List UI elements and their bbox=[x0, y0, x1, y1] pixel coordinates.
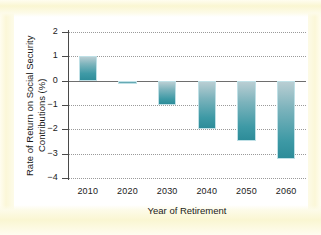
gridline bbox=[68, 32, 306, 33]
gridline bbox=[68, 105, 306, 106]
y-axis-tick-label: 0 bbox=[0, 75, 58, 85]
gridline bbox=[68, 178, 306, 179]
y-axis-tick-label: 1 bbox=[0, 50, 58, 60]
gridline bbox=[68, 129, 306, 130]
x-axis-tick-label: 2020 bbox=[108, 186, 148, 196]
figure-container: Rate of Return on Social Security Contri… bbox=[0, 0, 321, 235]
y-axis-tick-label: −3 bbox=[0, 148, 58, 158]
bar-2060 bbox=[277, 81, 296, 159]
y-axis-tick bbox=[62, 32, 68, 33]
y-axis-tick bbox=[62, 56, 68, 57]
zero-line bbox=[64, 81, 306, 82]
x-axis-tick-label: 2010 bbox=[68, 186, 108, 196]
bar-chart: Rate of Return on Social Security Contri… bbox=[0, 0, 321, 235]
gridline bbox=[68, 56, 306, 57]
x-axis-tick-label: 2030 bbox=[147, 186, 187, 196]
y-axis-tick bbox=[62, 178, 68, 179]
y-axis-tick bbox=[62, 154, 68, 155]
x-axis-tick-label: 2050 bbox=[227, 186, 267, 196]
x-axis-tick-label: 2040 bbox=[187, 186, 227, 196]
gridline bbox=[68, 154, 306, 155]
plot-area bbox=[68, 32, 306, 178]
y-axis-line bbox=[68, 30, 69, 180]
x-axis-title: Year of Retirement bbox=[68, 205, 306, 216]
y-axis-title-line-2: Contributions (%) bbox=[36, 79, 47, 152]
bar-2040 bbox=[198, 81, 217, 130]
y-axis-tick-label: −2 bbox=[0, 123, 58, 133]
y-axis-tick bbox=[62, 105, 68, 106]
bar-2010 bbox=[79, 56, 98, 80]
bar-2020 bbox=[118, 81, 137, 85]
bar-2050 bbox=[237, 81, 256, 142]
x-axis-tick-label: 2060 bbox=[266, 186, 306, 196]
y-axis-tick-label: 2 bbox=[0, 26, 58, 36]
y-axis-tick bbox=[62, 81, 68, 82]
y-axis-tick-label: −1 bbox=[0, 99, 58, 109]
y-axis-tick bbox=[62, 129, 68, 130]
y-axis-tick-label: −4 bbox=[0, 172, 58, 182]
bar-2030 bbox=[158, 81, 177, 105]
